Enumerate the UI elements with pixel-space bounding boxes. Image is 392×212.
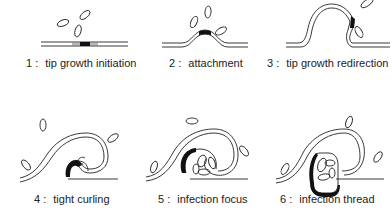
bacterium-icon <box>214 25 227 36</box>
stage-5-caption: 5 : infection focus <box>158 193 248 205</box>
bacterium-icon <box>196 154 208 168</box>
bacterium-icon <box>353 25 364 38</box>
bacterium-icon <box>56 18 69 28</box>
bacterium-icon <box>204 6 211 18</box>
bacterium-icon <box>20 158 32 171</box>
bacterium-icon <box>238 144 250 157</box>
bacterium-icon <box>186 118 198 124</box>
bacterium-icon <box>40 119 46 131</box>
bacterium-icon <box>372 150 384 163</box>
bacterium-icon <box>360 0 375 9</box>
stage-5-panel: 5 : infection focus <box>130 105 260 212</box>
stage-6-panel: 6 : infection thread <box>260 105 392 212</box>
bacterium-icon <box>344 115 354 128</box>
bacterium-icon <box>78 9 91 21</box>
bacterium-icon <box>329 168 335 178</box>
bacterium-icon <box>149 160 159 173</box>
stage-3-caption: 3 : tip growth redirection <box>267 57 388 69</box>
stage-2-panel: 2 : attachment <box>130 0 260 80</box>
bacterium-icon <box>318 173 331 181</box>
bacterium-icon <box>74 24 83 37</box>
bacterium-icon <box>193 164 199 174</box>
bacterium-icon <box>106 132 119 144</box>
stage-1-panel: 1 : tip growth initiation <box>0 0 130 80</box>
stage-4-caption: 4 : tight curling <box>34 193 110 205</box>
stage-6-caption: 6 : infection thread <box>280 193 375 205</box>
stage-1-caption: 1 : tip growth initiation <box>26 57 136 69</box>
bacterium-icon <box>189 15 200 28</box>
stage-2-caption: 2 : attachment <box>169 57 243 69</box>
stage-4-panel: 4 : tight curling <box>0 105 130 212</box>
stage-3-panel: 3 : tip growth redirection <box>260 0 392 80</box>
